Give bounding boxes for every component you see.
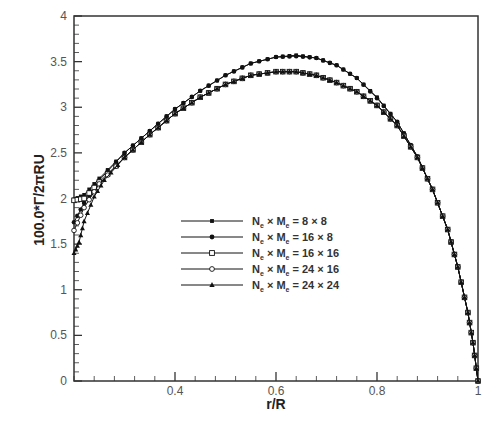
marker-filled-circle [248, 61, 253, 66]
legend-label: Ne × Me = 8 × 8 [252, 215, 327, 229]
marker-filled-circle [388, 112, 393, 117]
marker-filled-circle [122, 151, 127, 156]
y-axis-title: 100.0*Γ/2πRU [31, 154, 47, 246]
marker-filled-circle [274, 55, 279, 60]
marker-filled-circle [210, 235, 215, 240]
marker-filled-circle [265, 57, 270, 62]
marker-filled-circle [173, 107, 178, 112]
marker-filled-circle [223, 73, 228, 78]
x-tick-label: 0.4 [167, 384, 184, 398]
marker-filled-circle [257, 59, 262, 64]
marker-open-circle [210, 267, 215, 272]
line-chart: 00.511.522.533.54 0.40.60.81 Ne × Me = 8… [0, 0, 496, 422]
x-axis-title: r/R [266, 396, 285, 412]
marker-open-circle [87, 197, 92, 202]
marker-filled-triangle [85, 210, 90, 215]
marker-open-square [87, 191, 92, 196]
legend-label: Ne × Me = 16 × 8 [252, 231, 333, 245]
marker-filled-circle [307, 55, 312, 60]
marker-filled-circle [215, 78, 220, 83]
marker-filled-circle [321, 58, 326, 63]
marker-open-circle [75, 221, 80, 226]
y-tick-label: 0 [60, 374, 67, 388]
y-tick-label: 0.5 [50, 328, 67, 342]
marker-filled-circle [287, 54, 292, 59]
y-tick-label: 4 [60, 9, 67, 23]
y-tick-label: 1.5 [50, 237, 67, 251]
marker-filled-triangle [88, 202, 93, 207]
y-tick-label: 3.5 [50, 55, 67, 69]
marker-filled-circle [206, 83, 211, 88]
marker-filled-circle [381, 104, 386, 109]
marker-filled-circle [190, 95, 195, 100]
marker-open-circle [78, 213, 83, 218]
x-tick-label: 1 [475, 384, 482, 398]
y-tick-label: 1 [60, 283, 67, 297]
marker-filled-circle [294, 54, 299, 59]
marker-filled-circle [301, 54, 306, 59]
legend-label: Ne × Me = 16 × 16 [252, 247, 339, 261]
marker-filled-circle [181, 101, 186, 106]
y-tick-label: 2.5 [50, 146, 67, 160]
marker-filled-triangle [80, 226, 85, 231]
legend: Ne × Me = 8 × 8Ne × Me = 16 × 8Ne × Me =… [181, 215, 340, 293]
y-tick-label: 3 [60, 100, 67, 114]
marker-open-circle [82, 205, 87, 210]
legend-item: Ne × Me = 16 × 8 [181, 231, 333, 245]
marker-filled-circle [280, 54, 285, 59]
marker-open-square [210, 251, 215, 256]
legend-label: Ne × Me = 24 × 24 [252, 279, 340, 293]
marker-filled-circle [240, 65, 245, 70]
marker-filled-circle [334, 63, 339, 68]
x-tick-label: 0.8 [369, 384, 386, 398]
marker-filled-circle [368, 89, 373, 94]
legend-item: Ne × Me = 8 × 8 [181, 215, 327, 229]
legend-label: Ne × Me = 24 × 16 [252, 263, 339, 277]
marker-filled-circle [198, 89, 203, 94]
marker-filled-circle [355, 76, 360, 81]
marker-filled-circle [232, 69, 237, 74]
marker-filled-circle [328, 61, 333, 66]
marker-open-square [82, 196, 87, 201]
marker-filled-square [210, 219, 214, 223]
marker-filled-circle [348, 71, 353, 76]
legend-item: Ne × Me = 24 × 16 [181, 263, 339, 277]
marker-open-circle [72, 228, 77, 233]
marker-filled-circle [341, 67, 346, 72]
legend-item: Ne × Me = 24 × 24 [181, 279, 340, 293]
marker-filled-circle [375, 96, 380, 101]
marker-filled-triangle [82, 219, 87, 224]
marker-filled-circle [314, 56, 319, 61]
marker-filled-circle [361, 82, 366, 87]
y-tick-label: 2 [60, 192, 67, 206]
marker-filled-triangle [77, 240, 82, 245]
x-axis: 0.40.60.81 [74, 372, 482, 398]
legend-item: Ne × Me = 16 × 16 [181, 247, 339, 261]
